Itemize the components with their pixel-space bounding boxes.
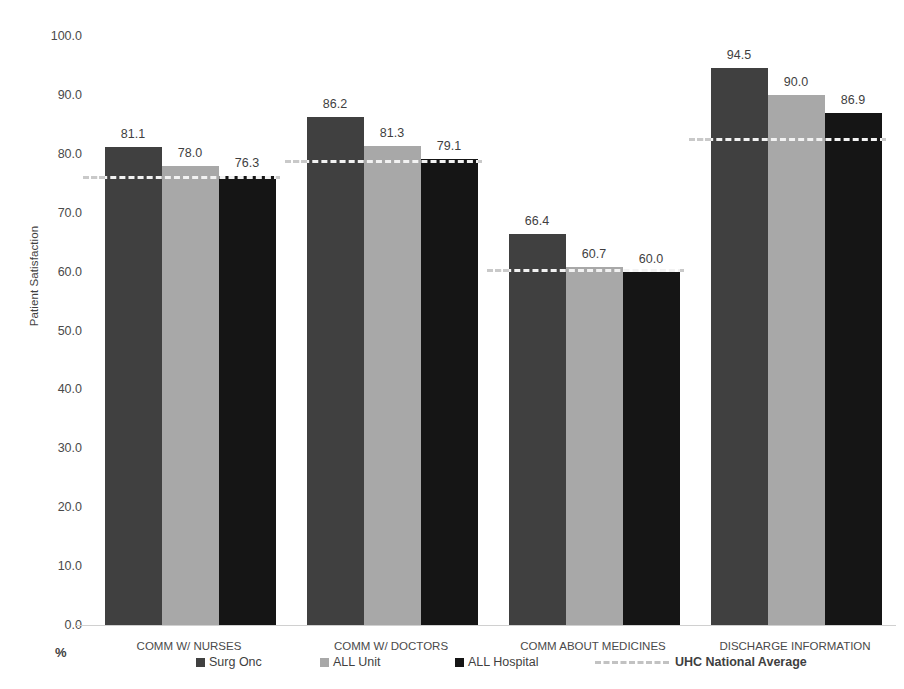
x-axis-category-label: COMM W/ NURSES xyxy=(88,640,290,652)
bar xyxy=(219,176,276,625)
uhc-national-average-line xyxy=(285,160,482,163)
bar-chart: Patient Satisfaction % 100.090.080.070.0… xyxy=(0,0,904,689)
legend-item-uhc-national-average[interactable]: UHC National Average xyxy=(595,655,807,669)
y-axis-tick-label: 100.0 xyxy=(30,30,82,43)
bar xyxy=(623,272,680,625)
legend-swatch-icon xyxy=(455,658,464,667)
bar-group: 81.178.076.3 xyxy=(88,36,290,625)
plot-area: 81.178.076.386.281.379.166.460.760.094.5… xyxy=(88,36,896,625)
uhc-national-average-line-stub xyxy=(276,176,280,179)
y-axis-tick-label: 30.0 xyxy=(30,442,82,455)
legend-item-label: UHC National Average xyxy=(675,655,807,669)
bar-value-label: 90.0 xyxy=(768,76,825,89)
bar-value-label: 66.4 xyxy=(509,215,566,228)
uhc-national-average-line-stub xyxy=(689,138,711,141)
bar-value-label: 86.2 xyxy=(307,98,364,111)
y-axis-tick-label: 40.0 xyxy=(30,383,82,396)
y-axis-tick-label: 10.0 xyxy=(30,560,82,573)
y-axis-tick-label: 20.0 xyxy=(30,501,82,514)
x-axis-category-label: DISCHARGE INFORMATION xyxy=(694,640,896,652)
bar xyxy=(105,147,162,625)
y-axis-tick-label: 70.0 xyxy=(30,207,82,220)
bar-group: 94.590.086.9 xyxy=(694,36,896,625)
bar-value-label: 86.9 xyxy=(825,94,882,107)
bar-value-label: 60.0 xyxy=(623,253,680,266)
legend-item-label: ALL Hospital xyxy=(468,655,538,669)
legend-item-label: ALL Unit xyxy=(333,655,380,669)
y-axis-tick-label: 80.0 xyxy=(30,148,82,161)
bar xyxy=(364,146,421,625)
uhc-national-average-line xyxy=(83,176,280,179)
axis-baseline xyxy=(76,625,896,626)
bar xyxy=(421,159,478,625)
bar-group: 86.281.379.1 xyxy=(290,36,492,625)
uhc-national-average-line-stub xyxy=(487,269,509,272)
bar xyxy=(307,117,364,625)
bar xyxy=(825,113,882,625)
uhc-national-average-line-stub xyxy=(83,176,105,179)
uhc-national-average-line-stub xyxy=(680,269,684,272)
legend-item-all-unit[interactable]: ALL Unit xyxy=(320,655,380,669)
uhc-national-average-line xyxy=(487,269,684,272)
chart-legend: Surg OncALL UnitALL HospitalUHC National… xyxy=(0,655,904,679)
uhc-national-average-line-stub xyxy=(882,138,886,141)
legend-dashed-line-icon xyxy=(595,661,669,664)
bar-value-label: 79.1 xyxy=(421,140,478,153)
bar-group: 66.460.760.0 xyxy=(492,36,694,625)
bar-value-label: 60.7 xyxy=(566,248,623,261)
bar xyxy=(509,234,566,625)
uhc-national-average-line-stub xyxy=(478,160,482,163)
bar-value-label: 81.3 xyxy=(364,127,421,140)
bar-value-label: 76.3 xyxy=(219,157,276,170)
legend-item-all-hospital[interactable]: ALL Hospital xyxy=(455,655,538,669)
y-axis-tick-label: 60.0 xyxy=(30,266,82,279)
x-axis-category-label: COMM W/ DOCTORS xyxy=(290,640,492,652)
y-axis-tick-label: 0.0 xyxy=(30,619,82,632)
y-axis-tick-label: 50.0 xyxy=(30,325,82,338)
legend-item-surg-onc[interactable]: Surg Onc xyxy=(196,655,262,669)
bar xyxy=(768,95,825,625)
legend-item-label: Surg Onc xyxy=(209,655,262,669)
legend-swatch-icon xyxy=(320,658,329,667)
x-axis-category-label: COMM ABOUT MEDICINES xyxy=(492,640,694,652)
y-axis-tick-label: 90.0 xyxy=(30,89,82,102)
legend-swatch-icon xyxy=(196,658,205,667)
bar xyxy=(162,166,219,625)
uhc-national-average-line xyxy=(689,138,886,141)
bar-value-label: 81.1 xyxy=(105,128,162,141)
bar-value-label: 78.0 xyxy=(162,147,219,160)
uhc-national-average-line-stub xyxy=(285,160,307,163)
bar xyxy=(711,68,768,625)
bar-value-label: 94.5 xyxy=(711,49,768,62)
bar xyxy=(566,267,623,625)
